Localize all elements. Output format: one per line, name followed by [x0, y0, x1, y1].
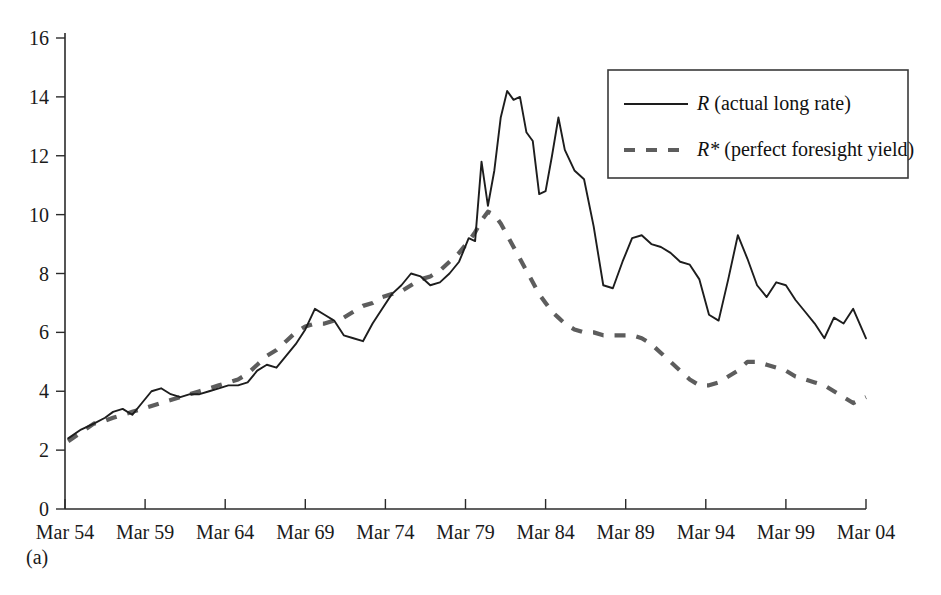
- legend-label-r-star: R* (perfect foresight yield): [696, 138, 914, 161]
- y-tick-label: 16: [29, 27, 49, 49]
- figure-caption: (a): [26, 546, 48, 569]
- legend-suffix-r-star: (perfect foresight yield): [719, 138, 914, 161]
- x-tick-label: Mar 89: [597, 521, 655, 543]
- y-axis: 0246810121416: [29, 27, 65, 520]
- y-tick-label: 8: [39, 263, 49, 285]
- x-axis: Mar 54Mar 59Mar 64Mar 69Mar 74Mar 79Mar …: [36, 499, 895, 543]
- y-tick-label: 10: [29, 204, 49, 226]
- x-tick-group: Mar 54Mar 59Mar 64Mar 69Mar 74Mar 79Mar …: [36, 499, 895, 543]
- x-tick-label: Mar 59: [116, 521, 174, 543]
- y-tick-label: 2: [39, 439, 49, 461]
- y-tick-group: 0246810121416: [29, 27, 65, 520]
- legend-symbol-r: R: [696, 92, 709, 114]
- x-tick-label: Mar 84: [516, 521, 574, 543]
- x-tick-label: Mar 99: [757, 521, 815, 543]
- x-tick-label: Mar 94: [677, 521, 735, 543]
- x-tick-label: Mar 79: [436, 521, 494, 543]
- y-tick-label: 0: [39, 498, 49, 520]
- x-tick-label: Mar 64: [196, 521, 254, 543]
- series-line-r-star: [68, 212, 866, 442]
- legend-symbol-r-star: R*: [696, 138, 719, 160]
- x-tick-label: Mar 74: [356, 521, 414, 543]
- chart-legend: R (actual long rate) R* (perfect foresig…: [608, 70, 914, 178]
- legend-box: [608, 70, 908, 178]
- figure-panel: 0246810121416 Mar 54Mar 59Mar 64Mar 69Ma…: [0, 0, 941, 595]
- x-tick-label: Mar 69: [276, 521, 334, 543]
- line-chart: 0246810121416 Mar 54Mar 59Mar 64Mar 69Ma…: [0, 0, 941, 595]
- x-tick-label: Mar 54: [36, 521, 94, 543]
- y-tick-label: 4: [39, 380, 49, 402]
- x-tick-label: Mar 04: [837, 521, 895, 543]
- y-tick-label: 12: [29, 145, 49, 167]
- y-tick-label: 6: [39, 321, 49, 343]
- legend-suffix-r: (actual long rate): [709, 92, 851, 115]
- legend-label-r: R (actual long rate): [696, 92, 851, 115]
- y-tick-label: 14: [29, 86, 49, 108]
